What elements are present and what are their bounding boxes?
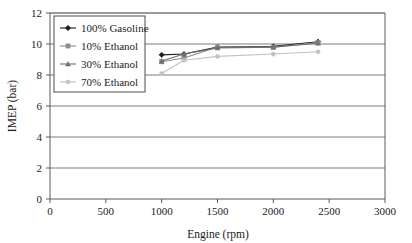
series-marker (159, 52, 164, 57)
series-marker (316, 50, 320, 54)
chart-legend: 100% Gasoline10% Ethanol30% Ethanol70% E… (54, 16, 149, 92)
series-marker (182, 58, 186, 62)
figure: 050010001500200025003000 024681012 Engin… (0, 0, 412, 243)
legend-swatch-marker (66, 80, 70, 84)
legend-label: 70% Ethanol (81, 76, 138, 88)
series-marker (215, 54, 219, 58)
y-tick-labels: 024681012 (31, 7, 43, 205)
data-series-group (159, 39, 321, 76)
y-tick-label: 2 (37, 162, 43, 174)
x-tick-label: 3000 (374, 205, 397, 217)
x-tick-label: 1500 (207, 205, 230, 217)
y-tick-label: 4 (37, 131, 43, 143)
x-tick-label: 0 (47, 205, 53, 217)
y-tick-label: 0 (37, 193, 43, 205)
y-tick-label: 8 (37, 69, 43, 81)
legend-label: 10% Ethanol (81, 40, 138, 52)
imep-vs-engine-speed-chart: 050010001500200025003000 024681012 Engin… (0, 0, 412, 243)
y-tick-label: 6 (37, 100, 43, 112)
legend-label: 100% Gasoline (81, 22, 149, 34)
series-marker (271, 52, 275, 56)
y-tick-label: 10 (31, 38, 43, 50)
x-tick-label: 2500 (318, 205, 341, 217)
series-marker (160, 71, 164, 75)
y-tick-label: 12 (31, 7, 42, 19)
legend-swatch-marker (66, 44, 70, 48)
x-tick-labels: 050010001500200025003000 (47, 205, 396, 217)
legend-label: 30% Ethanol (81, 58, 138, 70)
x-tick-label: 2000 (262, 205, 285, 217)
x-tick-label: 500 (98, 205, 115, 217)
x-axis-title: Engine (rpm) (187, 228, 249, 241)
plot-area: 050010001500200025003000 024681012 Engin… (6, 7, 397, 241)
x-tick-label: 1000 (151, 205, 174, 217)
y-axis-title: IMEP (bar) (6, 80, 19, 132)
